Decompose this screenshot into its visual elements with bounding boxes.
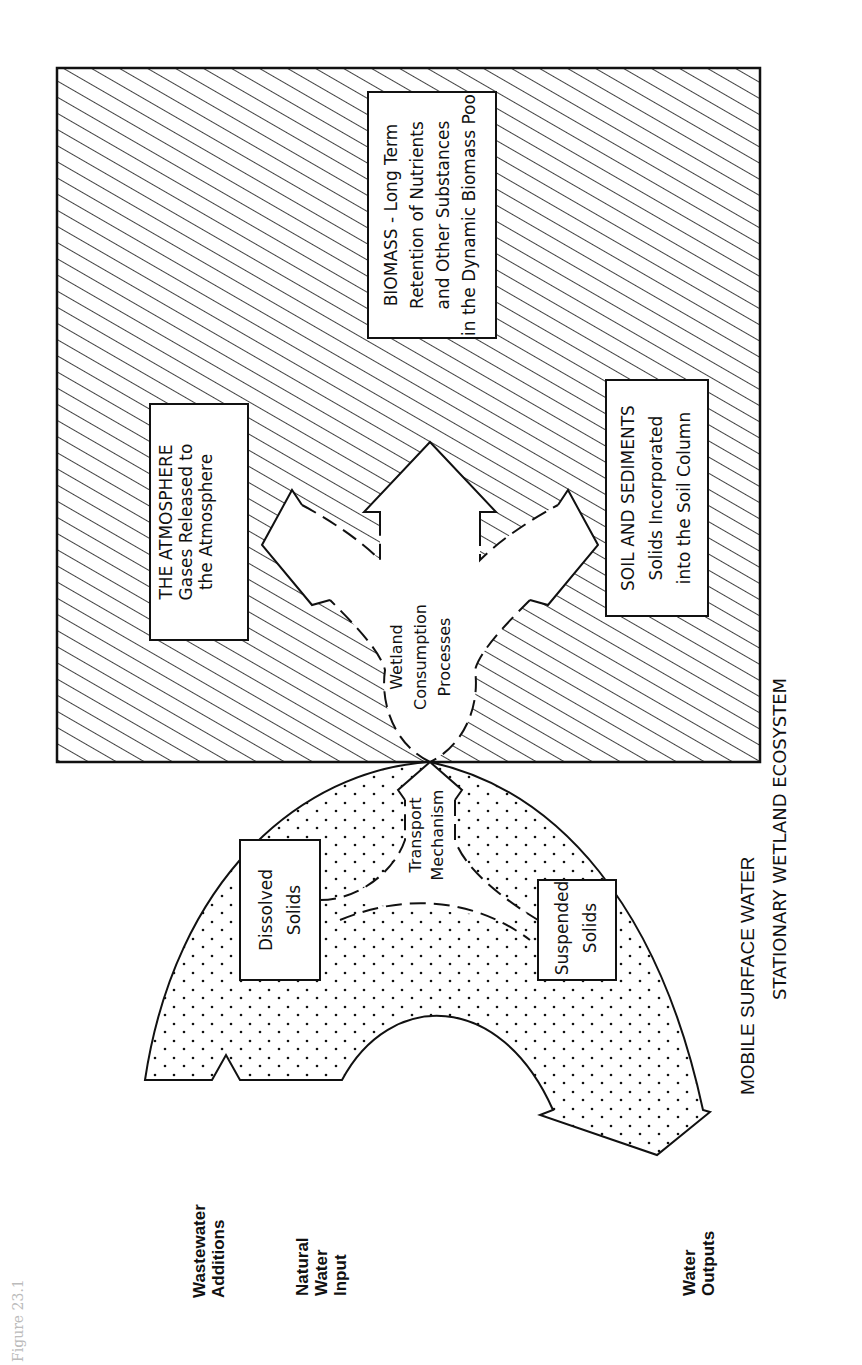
mobile-surface-water-label: MOBILE SURFACE WATER xyxy=(738,856,758,1095)
wastewater-additions-label: Wastewater Additions xyxy=(190,1204,228,1298)
outputs-line2: Outputs xyxy=(699,1231,718,1296)
suspended-solids-label: Suspended Solids xyxy=(548,880,604,976)
soil-line1: Solids Incorporated xyxy=(642,382,670,614)
natural-line3: Input xyxy=(331,1237,350,1296)
soil-label: SOIL AND SEDIMENTS Solids Incorporated i… xyxy=(614,382,698,614)
consumption-line1: Wetland xyxy=(385,582,409,732)
natural-line2: Water xyxy=(312,1237,331,1296)
soil-line2: into the Soil Column xyxy=(670,382,698,614)
atmosphere-line1: Gases Released to xyxy=(176,406,196,638)
consumption-processes-label: Wetland Consumption Processes xyxy=(385,582,457,732)
dissolved-line2: Solids xyxy=(280,848,308,972)
biomass-title: BIOMASS - Long Term xyxy=(378,94,404,336)
transport-mechanism-label: Transport Mechanism xyxy=(405,775,449,895)
wastewater-line2: Additions xyxy=(209,1204,228,1298)
biomass-line2: and Other Substances xyxy=(430,94,456,336)
soil-title: SOIL AND SEDIMENTS xyxy=(614,382,642,614)
water-outputs-label: Water Outputs xyxy=(680,1231,718,1296)
suspended-line2: Solids xyxy=(576,880,604,976)
dissolved-line1: Dissolved xyxy=(252,848,280,972)
atmosphere-label: THE ATMOSPHERE Gases Released to the Atm… xyxy=(156,406,216,638)
natural-water-input-label: Natural Water Input xyxy=(293,1237,350,1296)
suspended-line1: Suspended xyxy=(548,880,576,976)
figure-caption: Figure 23.1 xyxy=(10,1279,26,1362)
transport-line1: Transport xyxy=(405,775,427,895)
wastewater-line1: Wastewater xyxy=(190,1204,209,1298)
consumption-line3: Processes xyxy=(433,582,457,732)
biomass-label: BIOMASS - Long Term Retention of Nutrien… xyxy=(378,94,482,336)
atmosphere-line2: the Atmosphere xyxy=(196,406,216,638)
natural-line1: Natural xyxy=(293,1237,312,1296)
atmosphere-title: THE ATMOSPHERE xyxy=(156,406,176,638)
consumption-line2: Consumption xyxy=(409,582,433,732)
stationary-wetland-label: STATIONARY WETLAND ECOSYSTEM xyxy=(770,678,790,1000)
transport-line2: Mechanism xyxy=(427,775,449,895)
dissolved-solids-label: Dissolved Solids xyxy=(252,848,308,972)
biomass-line1: Retention of Nutrients xyxy=(404,94,430,336)
outputs-line1: Water xyxy=(680,1231,699,1296)
biomass-line3: in the Dynamic Biomass Pool xyxy=(456,94,482,336)
